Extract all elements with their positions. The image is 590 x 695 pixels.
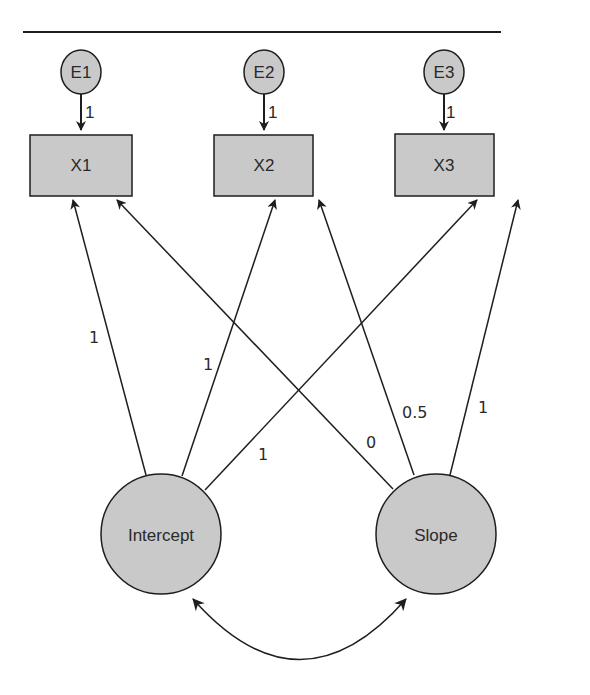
path-intercept-x3	[205, 200, 477, 490]
e1-label: E1	[71, 63, 92, 82]
slope-label: Slope	[414, 526, 457, 545]
path-slope-x1	[117, 200, 393, 489]
latent-node-intercept: Intercept	[101, 474, 221, 594]
path-label-slope-x2: 0.5	[402, 403, 427, 422]
x3-label: X3	[434, 156, 455, 175]
x2-label: X2	[254, 156, 275, 175]
e3-loading-label: 1	[446, 103, 455, 122]
error-node-e2: E2	[244, 50, 284, 94]
e3-label: E3	[434, 63, 455, 82]
path-intercept-x1	[73, 200, 146, 475]
path-label-slope-x3: 1	[478, 398, 488, 417]
path-slope-x3	[450, 200, 518, 475]
path-intercept-x2	[182, 200, 275, 476]
path-label-intercept-x2: 1	[203, 355, 213, 374]
observed-node-x1: X1	[30, 135, 132, 196]
e1-loading-label: 1	[85, 103, 94, 122]
path-diagram: E1 E2 E3 1 1 1 X1 X2 X3 1 1 1 0 0.5 1 In…	[0, 0, 590, 695]
e2-label: E2	[254, 63, 275, 82]
intercept-label: Intercept	[128, 526, 194, 545]
error-node-e3: E3	[424, 50, 464, 94]
covariance-arc	[193, 599, 406, 660]
observed-node-x3: X3	[395, 134, 494, 196]
observed-node-x2: X2	[214, 135, 313, 196]
path-label-intercept-x3: 1	[258, 445, 268, 464]
latent-node-slope: Slope	[376, 474, 496, 594]
x1-label: X1	[71, 156, 92, 175]
path-label-slope-x1: 0	[366, 433, 376, 452]
e2-loading-label: 1	[268, 103, 277, 122]
error-node-e1: E1	[61, 50, 101, 94]
path-label-intercept-x1: 1	[89, 328, 99, 347]
